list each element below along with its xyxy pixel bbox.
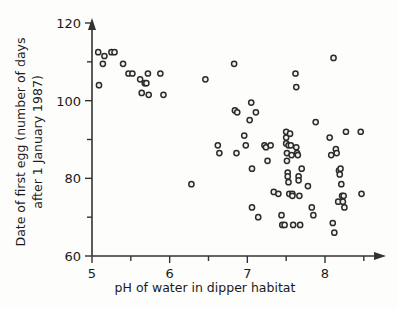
y-tick-label: 120 <box>56 16 81 31</box>
data-point <box>309 205 314 210</box>
data-point <box>249 166 254 171</box>
data-point <box>293 71 298 76</box>
data-point <box>294 145 299 150</box>
data-point <box>330 220 335 225</box>
y-axis-title-line2: after 1 January 1987) <box>30 75 45 209</box>
data-point <box>249 205 254 210</box>
data-point <box>358 129 363 134</box>
data-point <box>279 213 284 218</box>
data-point <box>359 191 364 196</box>
data-point <box>138 77 143 82</box>
data-point <box>120 61 125 66</box>
y-axis-title: Date of first egg (number of days after … <box>13 38 45 247</box>
data-point <box>329 152 334 157</box>
data-point <box>299 166 304 171</box>
data-point <box>282 222 287 227</box>
data-point <box>332 230 337 235</box>
data-point <box>296 178 301 183</box>
data-point <box>217 150 222 155</box>
x-axis-title: pH of water in dipper habitat <box>115 280 296 295</box>
data-point <box>341 193 346 198</box>
data-point <box>343 129 348 134</box>
y-axis-ticks: 6080100120 <box>56 16 92 264</box>
y-tick-label: 100 <box>56 94 81 109</box>
x-tick-label: 8 <box>321 266 329 281</box>
data-point <box>112 50 117 55</box>
data-point <box>139 90 144 95</box>
data-point <box>242 133 247 138</box>
data-point <box>203 77 208 82</box>
data-point <box>243 143 248 148</box>
data-point <box>158 71 163 76</box>
y-axis <box>88 18 96 256</box>
data-point <box>311 213 316 218</box>
data-point <box>298 222 303 227</box>
x-axis <box>92 252 386 260</box>
data-point <box>331 55 336 60</box>
data-point <box>232 61 237 66</box>
data-point <box>297 193 302 198</box>
data-point <box>286 180 291 185</box>
data-point <box>96 50 101 55</box>
data-point <box>256 215 261 220</box>
data-point <box>334 150 339 155</box>
data-point <box>285 174 290 179</box>
data-point <box>265 158 270 163</box>
data-point <box>130 71 135 76</box>
data-point <box>234 150 239 155</box>
x-axis-ticks: 5678 <box>88 256 364 281</box>
y-axis-title-line1: Date of first egg (number of days <box>13 38 28 247</box>
data-point <box>313 119 318 124</box>
data-point <box>253 110 258 115</box>
data-point <box>342 205 347 210</box>
data-point <box>337 172 342 177</box>
data-point <box>161 92 166 97</box>
data-point <box>249 100 254 105</box>
data-point <box>102 53 107 58</box>
x-tick-label: 7 <box>243 266 251 281</box>
data-point <box>287 131 292 136</box>
data-point <box>288 143 293 148</box>
data-point <box>339 182 344 187</box>
data-point <box>235 110 240 115</box>
data-point <box>291 222 296 227</box>
plot-canvas: 6080100120 5678 pH of water in dipper ha… <box>0 0 397 310</box>
data-point <box>340 199 345 204</box>
data-point <box>268 143 273 148</box>
scatter-plot-figure: 6080100120 5678 pH of water in dipper ha… <box>0 0 397 310</box>
data-point <box>294 84 299 89</box>
data-point <box>290 193 295 198</box>
data-point <box>289 152 294 157</box>
data-point <box>100 61 105 66</box>
data-point <box>327 135 332 140</box>
data-point <box>305 184 310 189</box>
x-tick-label: 6 <box>166 266 174 281</box>
y-tick-label: 80 <box>64 171 81 186</box>
data-point <box>276 191 281 196</box>
data-point <box>215 143 220 148</box>
data-point <box>284 158 289 163</box>
data-point <box>144 81 149 86</box>
data-point <box>295 152 300 157</box>
data-point <box>338 166 343 171</box>
data-point <box>145 71 150 76</box>
y-tick-label: 60 <box>64 249 81 264</box>
data-point <box>96 83 101 88</box>
data-point <box>146 92 151 97</box>
x-tick-label: 5 <box>88 266 96 281</box>
data-points-layer <box>96 50 364 236</box>
data-point <box>189 182 194 187</box>
data-point <box>247 117 252 122</box>
